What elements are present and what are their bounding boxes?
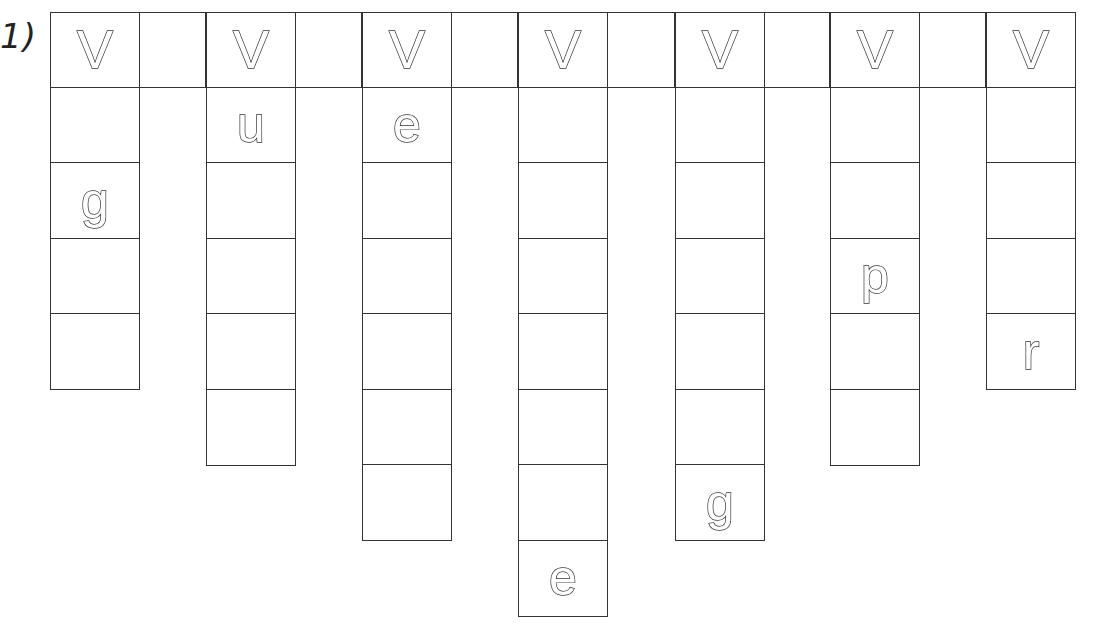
word-column-6: V p	[830, 12, 920, 466]
header-letter: V	[389, 22, 425, 76]
letter-box[interactable]: e	[362, 87, 452, 164]
letter-box[interactable]	[206, 162, 296, 239]
given-letter: u	[237, 100, 265, 150]
word-column-4: V e	[518, 12, 608, 617]
header-cell: V	[675, 12, 765, 88]
header-cell: V	[50, 12, 140, 88]
letter-box[interactable]	[362, 313, 452, 390]
letter-box[interactable]	[206, 238, 296, 315]
letter-box[interactable]	[50, 238, 140, 315]
letter-box[interactable]	[362, 162, 452, 239]
word-column-1: V g	[50, 12, 140, 390]
letter-box[interactable]	[986, 87, 1076, 164]
letter-box[interactable]: p	[830, 238, 920, 315]
header-letter: V	[702, 22, 738, 76]
header-cell: V	[518, 12, 608, 88]
letter-box[interactable]	[675, 238, 765, 315]
letter-box[interactable]	[518, 162, 608, 239]
letter-box[interactable]	[518, 389, 608, 466]
exercise-number: 1)	[0, 16, 37, 56]
letter-box[interactable]: g	[675, 464, 765, 541]
given-letter: e	[549, 553, 577, 603]
word-column-5: V g	[675, 12, 765, 541]
header-letter: V	[857, 22, 893, 76]
letter-box[interactable]	[830, 313, 920, 390]
letter-box[interactable]	[675, 162, 765, 239]
letter-box[interactable]	[206, 389, 296, 466]
word-column-7: V r	[986, 12, 1076, 390]
letter-box[interactable]	[830, 162, 920, 239]
header-cell: V	[206, 12, 296, 88]
word-column-3: V e	[362, 12, 452, 541]
header-letter: V	[77, 22, 113, 76]
header-cell: V	[830, 12, 920, 88]
letter-box[interactable]	[518, 87, 608, 164]
word-column-2: V u	[206, 12, 296, 466]
letter-box[interactable]	[362, 389, 452, 466]
letter-box[interactable]: u	[206, 87, 296, 164]
letter-box[interactable]	[986, 162, 1076, 239]
header-letter: V	[545, 22, 581, 76]
letter-box[interactable]	[675, 87, 765, 164]
letter-box[interactable]	[518, 464, 608, 541]
letter-box[interactable]	[986, 238, 1076, 315]
letter-box[interactable]	[518, 313, 608, 390]
letter-box[interactable]	[50, 87, 140, 164]
letter-box[interactable]	[362, 464, 452, 541]
header-letter: V	[233, 22, 269, 76]
given-letter: e	[393, 100, 421, 150]
letter-box[interactable]: g	[50, 162, 140, 239]
header-cell: V	[986, 12, 1076, 88]
letter-box[interactable]	[830, 389, 920, 466]
letter-box[interactable]	[362, 238, 452, 315]
letter-box[interactable]: r	[986, 313, 1076, 390]
header-letter: V	[1013, 22, 1049, 76]
given-letter: r	[1023, 327, 1040, 377]
letter-box[interactable]	[50, 313, 140, 390]
given-letter: g	[81, 176, 109, 226]
letter-box[interactable]	[518, 238, 608, 315]
letter-box[interactable]	[675, 313, 765, 390]
given-letter: g	[706, 478, 734, 528]
letter-box[interactable]	[206, 313, 296, 390]
letter-box[interactable]	[830, 87, 920, 164]
header-cell: V	[362, 12, 452, 88]
given-letter: p	[861, 251, 889, 301]
letter-box[interactable]	[675, 389, 765, 466]
letter-box[interactable]: e	[518, 540, 608, 617]
